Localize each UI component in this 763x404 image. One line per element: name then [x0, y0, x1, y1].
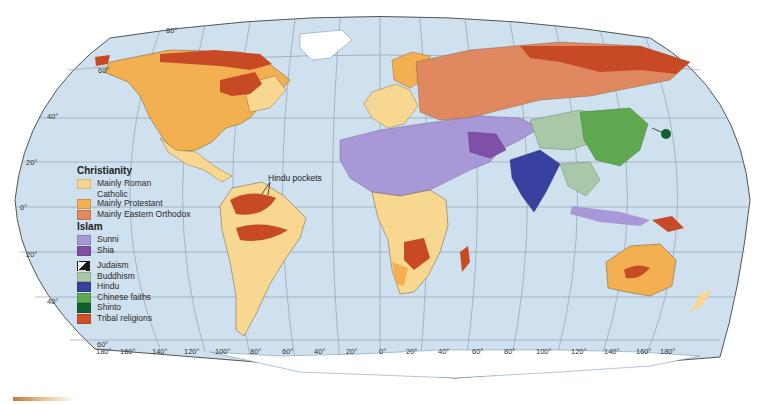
legend-label-line1: Mainly Roman — [97, 178, 151, 188]
legend-item-shinto: Shinto — [77, 302, 227, 313]
legend-label: Hindu — [97, 281, 119, 292]
lon-label: 120° — [571, 347, 587, 356]
lon-label: 20° — [346, 347, 357, 356]
lat-label-20s: 20° — [26, 250, 37, 259]
lon-label: 160° — [636, 347, 652, 356]
lat-label-20n: 20° — [26, 158, 37, 167]
lon-label: 80° — [504, 347, 515, 356]
legend-item-shia: Shia — [77, 245, 227, 256]
lon-label: 40° — [438, 347, 449, 356]
legend-label: Tribal religions — [97, 313, 152, 324]
lon-label: 120° — [184, 347, 200, 356]
swatch-buddhism — [77, 272, 91, 282]
lon-label: 40° — [314, 347, 325, 356]
accent-bar — [13, 397, 75, 401]
lat-label-80: 80° — [166, 26, 177, 35]
legend-item-chinese-faiths: Chinese faiths — [77, 292, 227, 303]
lon-label: 140° — [152, 347, 168, 356]
swatch-tribal — [77, 314, 91, 324]
swatch-sunni — [77, 235, 91, 245]
lat-label-60n: 60° — [98, 66, 109, 75]
legend-label-line2: Catholic — [97, 189, 128, 199]
legend-label: Mainly Eastern Orthodox — [97, 209, 191, 220]
lon-label: 140° — [604, 347, 620, 356]
annotation-pointer-icon — [258, 180, 278, 198]
lat-label-0: 0° — [20, 203, 27, 212]
legend-item-tribal: Tribal religions — [77, 313, 227, 324]
swatch-shinto — [77, 303, 91, 313]
shinto-marker — [661, 129, 671, 139]
lat-label-40n: 40° — [47, 112, 58, 121]
lon-label: 80° — [250, 347, 261, 356]
lon-label: 180° — [96, 347, 112, 356]
legend-label: Buddhism — [97, 271, 135, 282]
swatch-judaism — [77, 261, 91, 271]
legend-label: Shia — [97, 245, 114, 256]
legend-item-buddhism: Buddhism — [77, 271, 227, 282]
swatch-protestant — [77, 199, 91, 209]
legend-heading-christianity: Christianity — [77, 165, 227, 177]
swatch-roman-catholic — [77, 179, 91, 189]
swatch-chinese-faiths — [77, 293, 91, 303]
legend-item-hindu: Hindu — [77, 281, 227, 292]
legend-label: Sunni — [97, 234, 119, 245]
legend-label: Shinto — [97, 302, 121, 313]
legend-item-judaism: Judaism — [77, 260, 227, 271]
legend-label: Judaism — [97, 260, 129, 271]
lon-label: 180° — [660, 347, 676, 356]
legend-item-roman-catholic: Mainly RomanCatholic — [77, 178, 227, 198]
lon-label: 0° — [379, 347, 386, 356]
legend-label: Mainly Protestant — [97, 198, 163, 209]
lon-label: 160° — [120, 347, 136, 356]
legend-item-sunni: Sunni — [77, 234, 227, 245]
lon-label: 20° — [406, 347, 417, 356]
legend-label: Mainly RomanCatholic — [97, 178, 151, 199]
swatch-hindu — [77, 282, 91, 292]
legend-heading-islam: Islam — [77, 221, 227, 233]
legend-item-protestant: Mainly Protestant — [77, 198, 227, 209]
lon-label: 60° — [472, 347, 483, 356]
swatch-eastern-orthodox — [77, 210, 91, 220]
legend-item-eastern-orthodox: Mainly Eastern Orthodox — [77, 209, 227, 220]
map-legend: Christianity Mainly RomanCatholic Mainly… — [77, 165, 227, 323]
swatch-shia — [77, 246, 91, 256]
legend-label: Chinese faiths — [97, 292, 151, 303]
lon-label: 100° — [536, 347, 552, 356]
lon-label: 100° — [215, 347, 231, 356]
lon-label: 60° — [282, 347, 293, 356]
lat-label-40s: 40° — [47, 297, 58, 306]
